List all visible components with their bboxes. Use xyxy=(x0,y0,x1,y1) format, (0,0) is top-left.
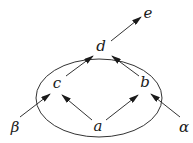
node-label-c: c xyxy=(53,74,62,92)
edge-beta-to-c xyxy=(20,94,50,117)
nodes-group: abcdeβα xyxy=(10,4,189,136)
edge-a-to-b xyxy=(106,95,138,120)
edge-a-to-c xyxy=(62,95,92,120)
edge-c-to-d xyxy=(66,56,93,76)
node-label-alpha: α xyxy=(179,118,189,136)
graph-diagram: abcdeβα xyxy=(0,0,193,143)
node-label-e: e xyxy=(144,4,153,22)
node-label-a: a xyxy=(94,117,103,135)
edge-alpha-to-b xyxy=(151,94,180,117)
edge-d-to-e xyxy=(111,17,141,41)
node-label-b: b xyxy=(140,73,150,91)
edges-group xyxy=(20,17,180,120)
node-label-beta: β xyxy=(10,118,20,136)
node-label-d: d xyxy=(96,37,106,55)
